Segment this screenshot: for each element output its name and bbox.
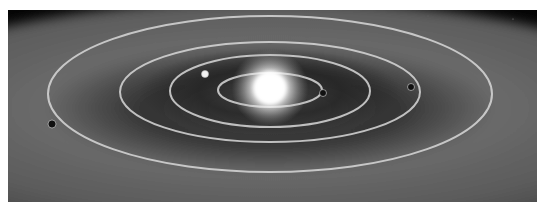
planet-4 (48, 120, 56, 128)
star-core (254, 72, 286, 104)
planet-3 (408, 84, 415, 91)
solar-system-illustration (8, 10, 537, 202)
planet-1 (320, 90, 327, 97)
solar-system-image (8, 10, 537, 202)
planet-2 (202, 71, 209, 78)
